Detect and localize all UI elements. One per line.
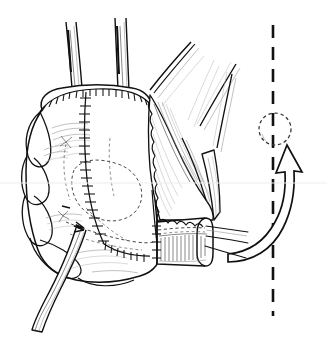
- anastomotic-cuff: [152, 218, 213, 266]
- surgical-illustration: [0, 0, 327, 339]
- illustration-figure: [0, 0, 327, 339]
- top-vessel-right: [115, 18, 129, 90]
